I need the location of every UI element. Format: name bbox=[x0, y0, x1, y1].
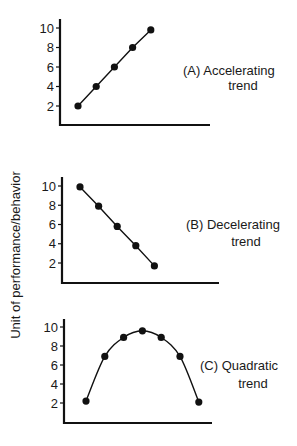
data-point bbox=[74, 102, 81, 109]
y-tick-label: 4 bbox=[47, 79, 54, 94]
data-point bbox=[82, 398, 89, 405]
data-point bbox=[120, 334, 127, 341]
y-tick-label: 8 bbox=[47, 40, 54, 55]
data-point bbox=[129, 44, 136, 51]
y-tick-label: 10 bbox=[40, 21, 54, 36]
y-tick-label: 2 bbox=[51, 396, 58, 411]
shared-y-axis-label: Unit of performance/behavior bbox=[8, 171, 23, 339]
y-tick-label: 6 bbox=[49, 217, 56, 232]
panel-b-label: (B) Decelerating bbox=[186, 217, 280, 232]
data-point bbox=[95, 203, 102, 210]
panel-a-label-trend: trend bbox=[228, 78, 258, 93]
panel-c-label: (C) Quadratic bbox=[200, 358, 279, 373]
data-point bbox=[151, 262, 158, 269]
panel-c-label-trend: trend bbox=[238, 376, 268, 391]
trend-line bbox=[86, 331, 199, 402]
data-point bbox=[195, 398, 202, 405]
data-point bbox=[111, 63, 118, 70]
chart-panel-accelerating: (A) Accelerating trend 246810 bbox=[40, 19, 275, 125]
y-tick-label: 10 bbox=[42, 179, 56, 194]
data-point bbox=[114, 223, 121, 230]
y-tick-label: 10 bbox=[44, 320, 58, 335]
y-tick-label: 6 bbox=[51, 358, 58, 373]
data-point bbox=[147, 26, 154, 33]
panel-b-label-trend: trend bbox=[231, 234, 261, 249]
data-point bbox=[101, 353, 108, 360]
axes bbox=[64, 319, 212, 423]
data-point bbox=[176, 353, 183, 360]
y-tick-label: 4 bbox=[49, 236, 56, 251]
y-tick-label: 8 bbox=[49, 198, 56, 213]
data-point bbox=[93, 83, 100, 90]
data-point bbox=[158, 334, 165, 341]
y-tick-label: 2 bbox=[49, 256, 56, 271]
data-point bbox=[132, 242, 139, 249]
y-tick-label: 8 bbox=[51, 339, 58, 354]
y-tick-label: 4 bbox=[51, 377, 58, 392]
trend-figure: Unit of performance/behavior (A) Acceler… bbox=[0, 0, 297, 446]
chart-panel-decelerating: (B) Decelerating trend 246810 bbox=[42, 177, 280, 283]
data-point bbox=[139, 327, 146, 334]
y-tick-label: 2 bbox=[47, 99, 54, 114]
panel-a-label: (A) Accelerating bbox=[183, 63, 275, 78]
y-tick-label: 6 bbox=[47, 60, 54, 75]
chart-panel-quadratic: (C) Quadratic trend 246810 bbox=[44, 319, 279, 423]
data-point bbox=[76, 183, 83, 190]
